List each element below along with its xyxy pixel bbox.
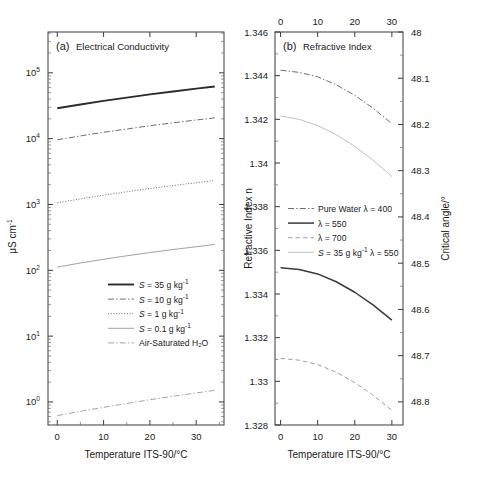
panel-a-frame: [48, 32, 224, 425]
panel-b-xtick-label: 20: [349, 431, 360, 442]
panel-a-ytick-label: 104: [26, 132, 41, 144]
panel-a-label: (a): [56, 40, 69, 52]
panel-b-ytick-left-label: 1.34: [250, 158, 269, 169]
panel-b-ytick-left-label: 1.33: [250, 376, 269, 387]
panel-b-legend-label-0: Pure Water λ = 400: [318, 204, 392, 214]
panel-a-yaxis-label: μS cm-1: [6, 219, 18, 254]
panel-b-xtick-label: 10: [312, 431, 323, 442]
panel-b-ytick-left-label: 1.344: [244, 70, 268, 81]
panel-b: 1.3461.3441.3421.341.3381.3361.3341.3321…: [240, 0, 479, 482]
panel-a: 1001011021031041050102030Temperature ITS…: [0, 0, 240, 482]
panel-b-ytick-left-label: 1.342: [244, 114, 268, 125]
panel-a-ytick-label: 103: [26, 198, 41, 210]
panel-b-ytick-right-label: 48.3: [411, 165, 430, 176]
panel-b-ytick-left-label: 1.332: [244, 332, 268, 343]
panel-b-ytick-right-label: 48.5: [411, 258, 430, 269]
panel-b-ytick-right-label: 48.1: [411, 73, 430, 84]
panel-b-svg: 1.3461.3441.3421.341.3381.3361.3341.3321…: [240, 0, 479, 482]
figure-canvas: 1001011021031041050102030Temperature ITS…: [0, 0, 479, 482]
panel-a-legend-label-0: S = 35 g kg-1: [139, 278, 189, 290]
panel-b-title: Refractive Index: [303, 41, 372, 52]
panel-b-ytick-left-label: 1.328: [244, 420, 268, 431]
panel-b-legend-label-2: λ = 700: [318, 233, 347, 243]
panel-b-xaxis-label: Temperature ITS-90/°C: [288, 449, 391, 460]
panel-b-ytick-right-label: 48.8: [411, 396, 430, 407]
panel-a-xtick-label: 20: [145, 431, 156, 442]
panel-b-legend-label-1: λ = 550: [318, 219, 347, 229]
panel-b-yaxis-left-label: Refractive Index n: [243, 188, 254, 269]
panel-b-xtick-top-label: 0: [278, 16, 283, 27]
panel-a-ytick-label: 101: [26, 330, 41, 342]
panel-a-ytick-label: 102: [26, 264, 41, 276]
panel-b-ytick-right-label: 48.4: [411, 211, 430, 222]
panel-a-legend-label-3: S = 0.1 g kg-1: [139, 322, 191, 334]
panel-b-ytick-left-label: 1.334: [244, 289, 268, 300]
panel-b-xtick-label: 0: [278, 431, 283, 442]
panel-b-ytick-right-label: 48: [411, 27, 422, 38]
panel-a-xtick-label: 30: [191, 431, 202, 442]
panel-a-legend-label-1: S = 10 g kg-1: [139, 293, 189, 305]
panel-a-legend-label-4: Air-Saturated H₂O: [139, 338, 209, 348]
panel-b-xtick-top-label: 20: [349, 16, 360, 27]
panel-a-svg: 1001011021031041050102030Temperature ITS…: [0, 0, 240, 482]
panel-b-label: (b): [283, 40, 296, 52]
panel-a-legend-label-2: S = 1 g kg-1: [139, 308, 184, 320]
panel-a-ytick-label: 105: [26, 66, 41, 78]
panel-b-yaxis-right-label: Critical angle/°: [440, 196, 451, 261]
panel-a-xtick-label: 10: [98, 431, 109, 442]
panel-a-ytick-label: 100: [26, 395, 41, 407]
panel-b-legend-label-3: S = 35 g kg-1 λ = 550: [318, 246, 399, 258]
panel-b-ytick-right-label: 48.6: [411, 304, 430, 315]
panel-a-xaxis-label: Temperature ITS-90/°C: [85, 449, 188, 460]
panel-b-ytick-right-label: 48.2: [411, 119, 430, 130]
panel-b-xtick-top-label: 30: [387, 16, 398, 27]
panel-b-ytick-left-label: 1.346: [244, 27, 268, 38]
panel-b-ytick-right-label: 48.7: [411, 350, 430, 361]
panel-b-xtick-top-label: 10: [312, 16, 323, 27]
panel-a-xtick-label: 0: [55, 431, 60, 442]
panel-b-xtick-label: 30: [387, 431, 398, 442]
panel-a-title: Electrical Conductivity: [76, 41, 169, 52]
